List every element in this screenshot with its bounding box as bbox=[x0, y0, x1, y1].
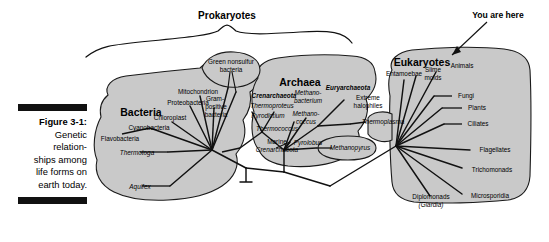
taxon-proteobacteria: Proteobacteria bbox=[167, 99, 209, 106]
taxon-slime-molds-line2: molds bbox=[424, 74, 441, 81]
caption-line-1: Genetic bbox=[0, 129, 87, 142]
taxon-pyrodictium: Pyrodictium bbox=[251, 112, 285, 120]
taxon-microsporidia: Microsporidia bbox=[471, 192, 509, 200]
caption-rule-bottom bbox=[18, 197, 87, 204]
figure-number: Figure 3-1: bbox=[0, 116, 87, 129]
taxon-euryarchaeota: Euryarchaeota bbox=[326, 84, 371, 92]
taxon-pyrolobus: Pyrolobus bbox=[294, 139, 323, 147]
taxon-flagellates: Flagellates bbox=[480, 146, 511, 154]
prokaryotes-label: Prokaryotes bbox=[198, 10, 256, 21]
taxon-thermoproteus: Thermoproteus bbox=[250, 102, 294, 110]
taxon-methanococcus-line1: Methano- bbox=[293, 110, 320, 117]
taxon-thermotoga: Thermotoga bbox=[120, 149, 155, 157]
taxon-methanobacterium-line1: Methano- bbox=[295, 89, 322, 96]
taxon-mitochondrion: Mitochondrion bbox=[178, 88, 219, 95]
taxon-diplomonads-line2: (Giardia) bbox=[419, 201, 444, 209]
taxon-marine-crenarchaeota-line1: Marine bbox=[267, 138, 287, 145]
taxon-cyanobacteria: Cyanobacteria bbox=[128, 124, 170, 132]
taxon-green-nonsulfur-line2: bacteria bbox=[220, 66, 243, 73]
caption-text: Figure 3-1: Genetic relation- ships amon… bbox=[0, 116, 96, 192]
taxon-chloroplast: Chloroplast bbox=[154, 114, 187, 122]
you-are-here-label: You are here bbox=[472, 10, 524, 20]
archaea-domain-label: Archaea bbox=[279, 76, 321, 88]
taxon-gram-positive-line3: bacteria bbox=[205, 111, 228, 118]
taxon-extreme-halophiles-line2: halophiles bbox=[354, 102, 383, 110]
taxon-thermoplasma: Thermoplasma bbox=[362, 118, 405, 126]
taxon-methanobacterium-line2: bacterium bbox=[294, 97, 323, 104]
eukaryotes-domain-label: Eukaryotes bbox=[394, 56, 451, 68]
taxon-trichomonads: Trichomonads bbox=[472, 166, 512, 173]
taxon-diplomonads-line1: Diplomonads bbox=[412, 193, 449, 201]
figure-canvas: Prokaryotes You are here Bacteria Archae… bbox=[0, 0, 549, 242]
caption-rule-top bbox=[18, 104, 87, 111]
taxon-methanococcus-line2: coccus bbox=[296, 118, 317, 125]
taxon-animals: Animals bbox=[451, 62, 474, 69]
caption-line-2: relation- bbox=[0, 141, 87, 154]
taxon-extreme-halophiles-line1: Extreme bbox=[356, 94, 380, 101]
taxon-green-nonsulfur-line1: Green nonsulfur bbox=[208, 58, 255, 65]
caption-line-3: ships among bbox=[0, 154, 87, 167]
caption-line-4: life forms on bbox=[0, 166, 87, 179]
taxon-slime-molds-line1: Slime bbox=[425, 66, 441, 73]
euryarchaeota-notch bbox=[368, 112, 392, 142]
taxon-thermococcus: Thermococcus bbox=[256, 125, 299, 132]
taxon-fungi: Fungi bbox=[458, 92, 474, 100]
taxon-methanopyrus: Methanopyrus bbox=[330, 144, 371, 152]
taxon-entamoebae: Entamoebae bbox=[386, 70, 423, 77]
taxon-plants: Plants bbox=[468, 104, 486, 111]
taxon-crenarchaeota: Crenarchaeota bbox=[252, 92, 297, 99]
figure-caption: Figure 3-1: Genetic relation- ships amon… bbox=[0, 104, 96, 204]
prokaryotes-brace bbox=[86, 25, 352, 57]
caption-line-5: earth today. bbox=[0, 179, 87, 192]
taxon-marine-crenarchaeota-line2: Crenarchaeota bbox=[256, 146, 299, 153]
taxon-ciliates: Ciliates bbox=[468, 120, 489, 127]
taxon-flavobacteria: Flavobacteria bbox=[101, 135, 140, 142]
root-stem bbox=[240, 168, 252, 182]
taxon-aquifex: Aquifex bbox=[128, 183, 151, 191]
